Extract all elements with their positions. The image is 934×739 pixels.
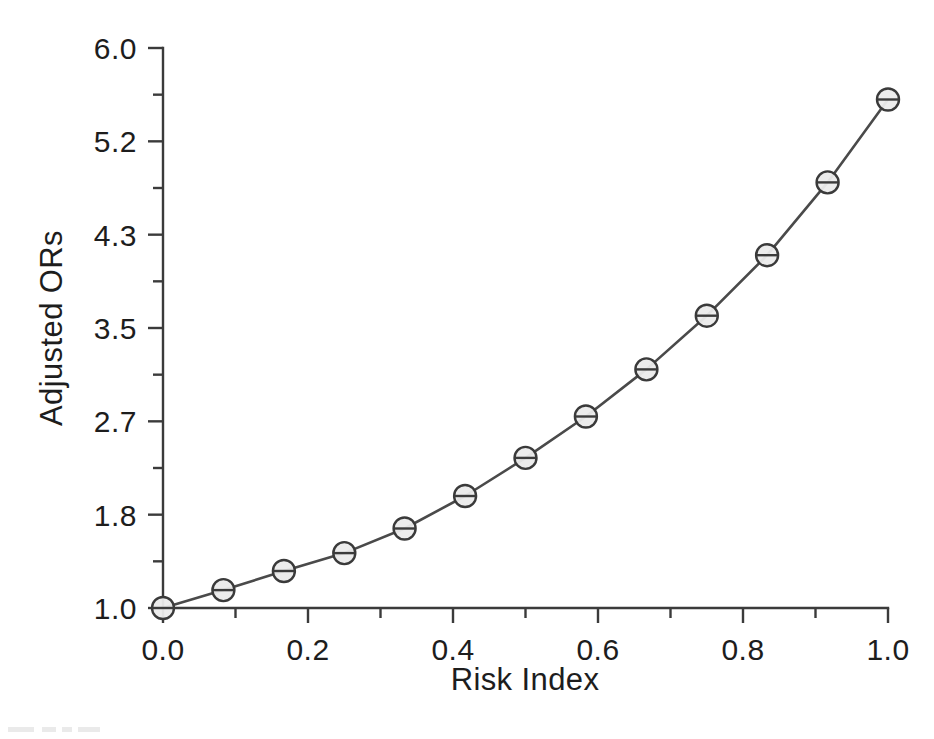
- y-tick-label-1: 1.8: [94, 499, 137, 532]
- y-axis-title: Adjusted ORs: [34, 230, 69, 426]
- data-point-marker: [394, 518, 416, 540]
- data-point-marker: [756, 244, 778, 266]
- x-tick-label-5: 1.0: [866, 633, 909, 666]
- y-tick-label-0: 1.0: [94, 592, 137, 625]
- x-axis-ticks: [163, 608, 888, 623]
- y-tick-label-5: 5.2: [94, 125, 137, 158]
- y-axis-ticks: [148, 48, 163, 608]
- y-tick-label-6: 6.0: [94, 32, 137, 65]
- x-axis-title: Risk Index: [451, 662, 600, 697]
- data-point-marker: [273, 560, 295, 582]
- x-tick-label-1: 0.2: [286, 633, 329, 666]
- data-point-marker: [152, 597, 174, 619]
- x-tick-label-0: 0.0: [141, 633, 184, 666]
- y-tick-label-3: 3.5: [94, 312, 137, 345]
- data-point-marker: [877, 89, 899, 111]
- series-line-adjusted-ors: [163, 100, 888, 609]
- y-tick-label-2: 2.7: [94, 405, 137, 438]
- data-point-marker: [817, 171, 839, 193]
- data-point-marker: [515, 447, 537, 469]
- axis-lines: [163, 48, 888, 608]
- y-tick-label-4: 4.3: [94, 219, 137, 252]
- data-point-marker: [696, 305, 718, 327]
- series-markers: [152, 89, 899, 620]
- chart-figure: 1.01.82.73.54.35.26.0 0.00.20.40.60.81.0…: [0, 0, 934, 739]
- adjusted-ors-line-chart: 1.01.82.73.54.35.26.0 0.00.20.40.60.81.0…: [0, 0, 934, 739]
- y-axis-tick-labels: 1.01.82.73.54.35.26.0: [94, 32, 137, 625]
- data-point-marker: [333, 542, 355, 564]
- data-point-marker: [454, 485, 476, 507]
- data-point-marker: [212, 579, 234, 601]
- data-point-marker: [635, 358, 657, 380]
- x-tick-label-4: 0.8: [721, 633, 764, 666]
- data-point-marker: [575, 406, 597, 428]
